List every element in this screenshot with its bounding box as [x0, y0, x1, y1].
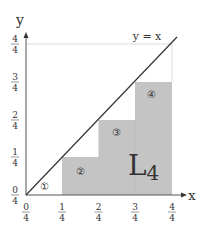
- svg-text:4: 4: [96, 213, 102, 223]
- svg-text:4: 4: [12, 45, 18, 55]
- svg-text:2: 2: [96, 202, 102, 212]
- svg-text:4: 4: [12, 83, 18, 93]
- region-label-2: ②: [76, 166, 85, 177]
- x-axis-arrow-icon: [181, 193, 187, 198]
- y-axis-arrow-icon: [24, 32, 29, 38]
- sum-label-main: L: [128, 149, 147, 182]
- sum-label-subscript: 4: [147, 161, 160, 185]
- x-tick-4: 4 4: [168, 202, 176, 223]
- y-tick-2: 2 4: [11, 110, 19, 131]
- x-tick-0: 0 4: [22, 202, 30, 223]
- svg-text:4: 4: [12, 121, 18, 131]
- y-tick-0: 0 4: [11, 185, 19, 206]
- svg-text:1: 1: [59, 202, 65, 212]
- svg-text:4: 4: [12, 158, 18, 168]
- region-label-1: ①: [40, 181, 49, 192]
- x-tick-2: 2 4: [95, 202, 103, 223]
- svg-text:4: 4: [23, 213, 29, 223]
- svg-text:2: 2: [12, 110, 18, 120]
- region-label-3: ③: [112, 127, 121, 138]
- svg-text:4: 4: [169, 202, 175, 212]
- svg-text:1: 1: [12, 147, 18, 157]
- svg-text:4: 4: [12, 34, 18, 44]
- x-tick-3: 3 4: [131, 202, 139, 223]
- svg-text:0: 0: [12, 185, 18, 195]
- svg-text:4: 4: [59, 213, 65, 223]
- svg-text:4: 4: [12, 196, 18, 206]
- svg-text:4: 4: [169, 213, 175, 223]
- y-tick-1: 1 4: [11, 147, 19, 168]
- region-label-4: ④: [147, 89, 156, 100]
- line-label: y = x: [132, 30, 162, 43]
- x-tick-1: 1 4: [58, 202, 66, 223]
- svg-text:0: 0: [23, 202, 29, 212]
- y-tick-3: 3 4: [11, 72, 19, 93]
- y-axis-label: y: [15, 12, 24, 28]
- diagram-canvas: y x y = x 0 4 1 4 2 4 3 4 4 4 0 4 1 4 2: [0, 0, 210, 231]
- y-tick-4: 4 4: [11, 34, 19, 55]
- svg-text:4: 4: [132, 213, 138, 223]
- svg-text:3: 3: [12, 72, 18, 82]
- x-axis-label: x: [188, 188, 196, 203]
- svg-text:3: 3: [132, 202, 138, 212]
